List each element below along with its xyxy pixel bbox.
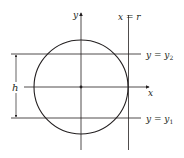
label-x-equals-r: x = r <box>118 12 141 22</box>
label-y2-sub: 2 <box>169 54 173 61</box>
x-axis-label: x <box>148 88 153 98</box>
label-y1-eq: = <box>151 114 164 124</box>
label-y2-eq: = <box>151 50 164 60</box>
label-y-equals-y2: y = y2 <box>145 50 173 61</box>
center-point <box>80 86 83 89</box>
y-axis-label: y <box>72 10 79 20</box>
label-x-equals-r-eq: = <box>123 12 136 22</box>
circle-diagram: h y x x = r y = y2 y = y1 <box>0 0 184 158</box>
label-y-equals-y1: y = y1 <box>145 114 173 125</box>
label-y1-sub: 1 <box>169 118 173 125</box>
label-x-equals-r-rhs: r <box>136 12 141 22</box>
dimension-h-label: h <box>12 82 18 93</box>
